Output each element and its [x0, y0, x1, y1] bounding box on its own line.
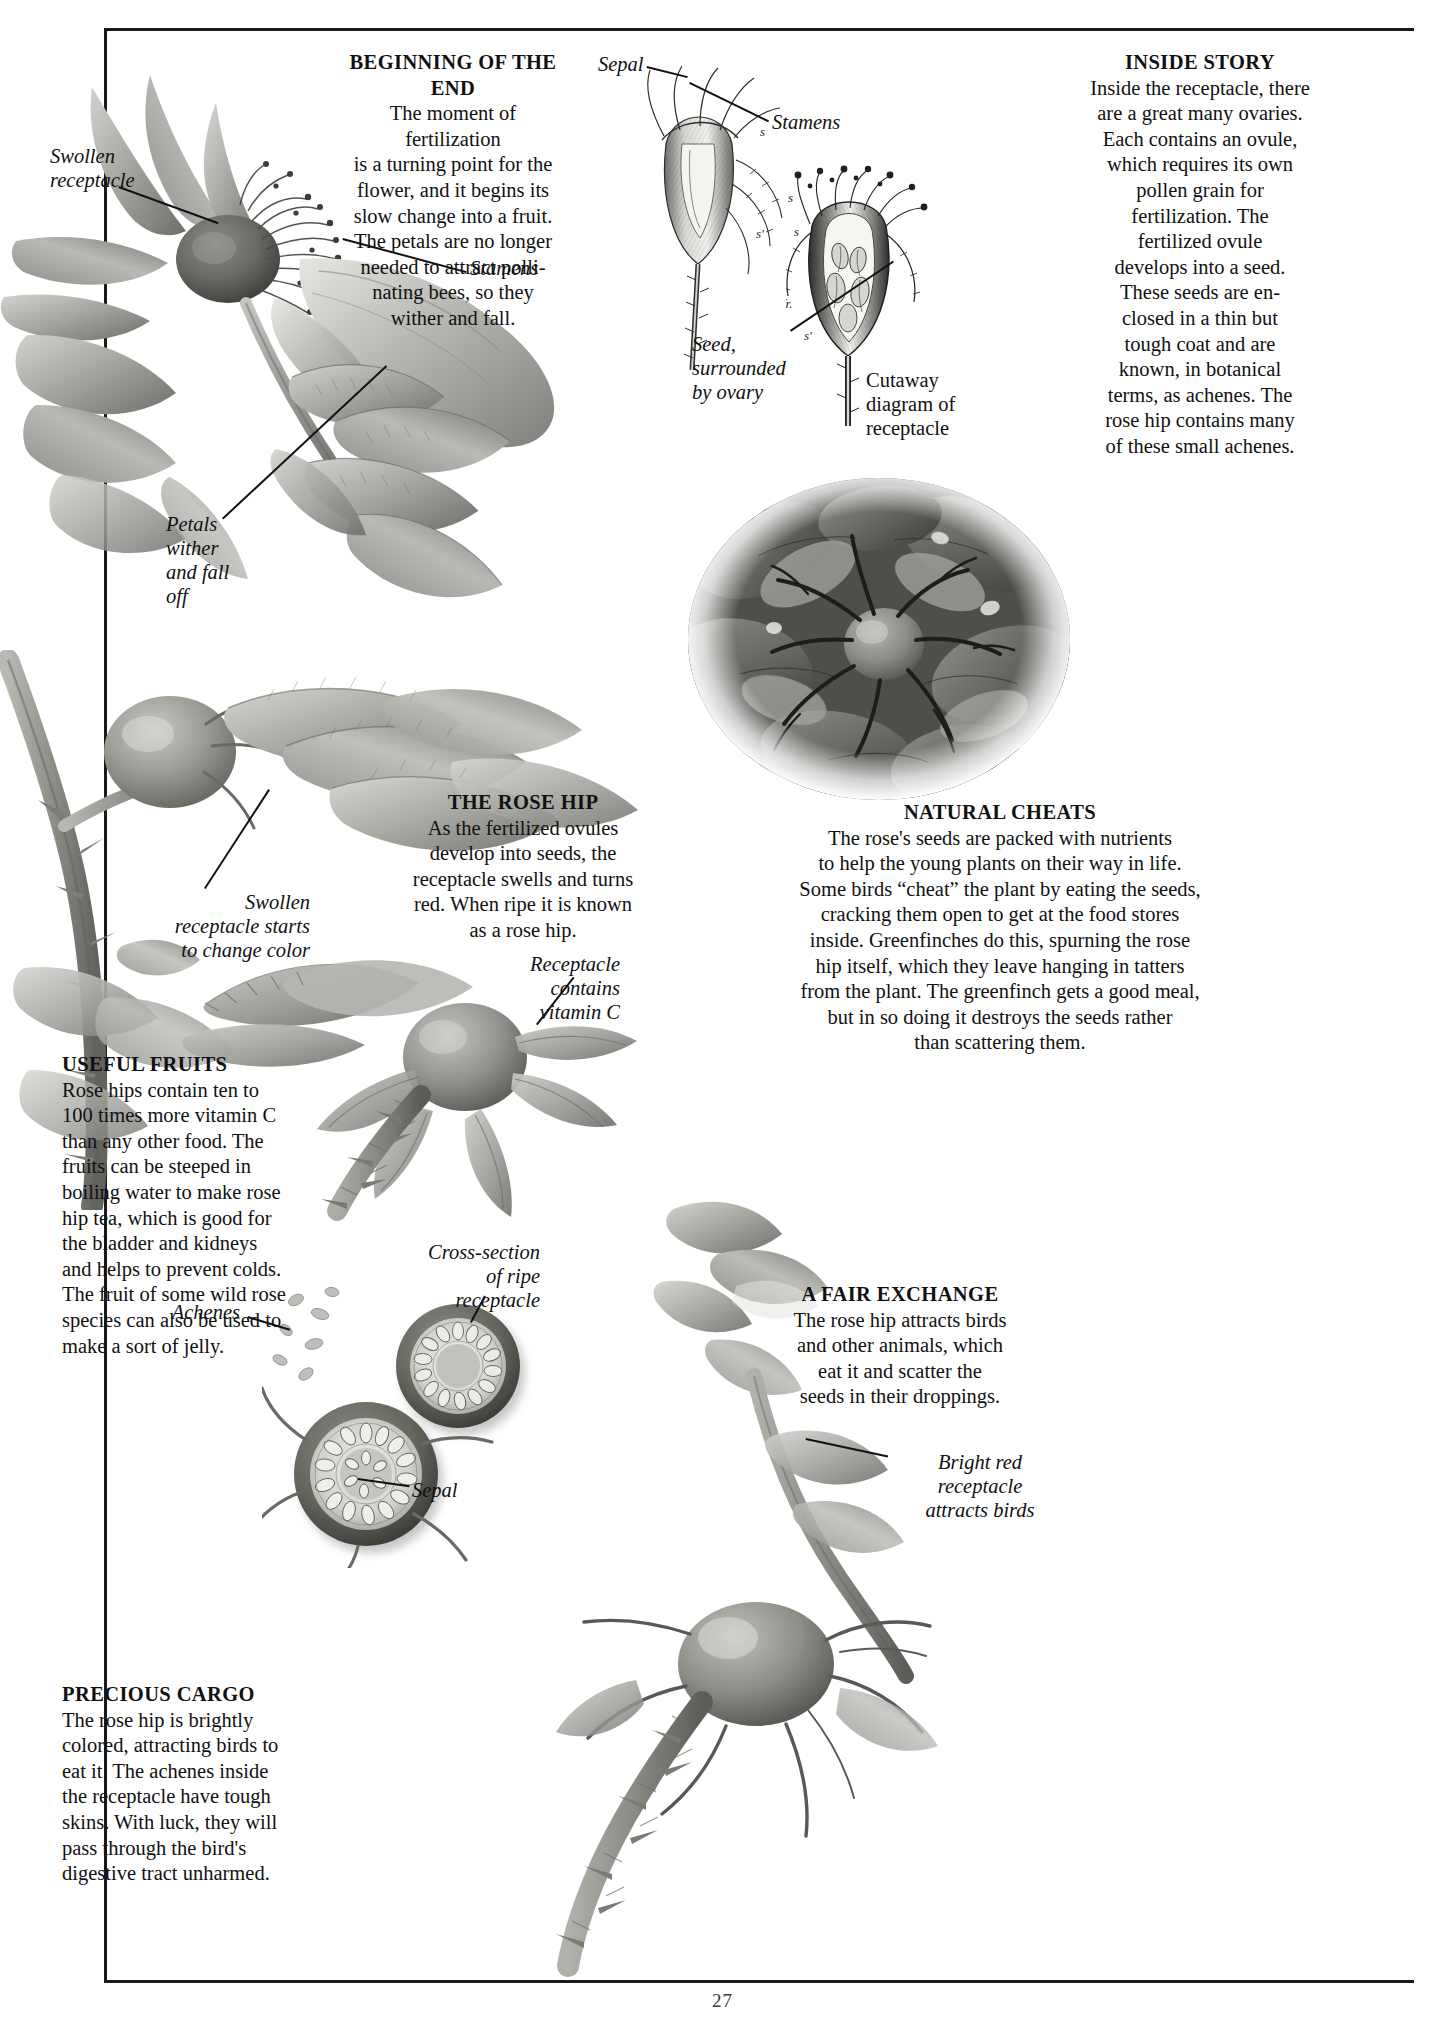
caption-stamens-engraving: Stamens [772, 110, 892, 134]
caption-line: receptacle [890, 1474, 1070, 1498]
caption-line: Swollen [120, 890, 310, 914]
body-line: eat it. The achenes inside [62, 1759, 312, 1785]
body-line: the receptacle have tough [62, 1784, 312, 1810]
body-line: than scattering them. [680, 1030, 1320, 1056]
body-line: of these small achenes. [1085, 434, 1315, 460]
body-line: The petals are no longer [342, 229, 564, 255]
heading-natural-cheats: NATURAL CHEATS [680, 800, 1320, 826]
caption-seed-surrounded-by-ovary: Seed, surrounded by ovary [692, 332, 842, 404]
body-line: fertilization. The [1085, 204, 1315, 230]
heading-precious-cargo: PRECIOUS CARGO [62, 1682, 312, 1708]
body-line: nating bees, so they [342, 280, 564, 306]
caption-line: Achenes [130, 1300, 240, 1324]
body-line: but in so doing it destroys the seeds ra… [680, 1005, 1320, 1031]
body-line: than any other food. The [62, 1129, 292, 1155]
body-line: seeds in their droppings. [780, 1384, 1020, 1410]
body-line: tough coat and are [1085, 332, 1315, 358]
photo-cross-sections-of-receptacle [262, 1278, 562, 1568]
caption-line: of ripe [400, 1264, 540, 1288]
caption-line: Cross-section [400, 1240, 540, 1264]
heading-the-rose-hip: THE ROSE HIP [408, 790, 638, 816]
body-line: make a sort of jelly. [62, 1334, 292, 1360]
text-block-beginning-of-the-end: BEGINNING OF THE END The moment of ferti… [342, 50, 564, 332]
caption-line: Swollen [50, 144, 200, 168]
body-line: red. When ripe it is known [408, 892, 638, 918]
page-rule-top [106, 28, 1414, 31]
caption-line: receptacle [400, 1288, 540, 1312]
body-line: skins. With luck, they will [62, 1810, 312, 1836]
caption-line: by ovary [692, 380, 842, 404]
caption-line: surrounded [692, 356, 842, 380]
body-line: to help the young plants on their way in… [680, 851, 1320, 877]
text-block-a-fair-exchange: A FAIR EXCHANGE The rose hip attracts bi… [780, 1282, 1020, 1410]
body-line: inside. Greenfinches do this, spurning t… [680, 928, 1320, 954]
body-line: digestive tract unharmed. [62, 1861, 312, 1887]
svg-text:s: s [760, 124, 765, 139]
caption-achenes: Achenes [130, 1300, 240, 1324]
text-block-natural-cheats: NATURAL CHEATS The rose's seeds are pack… [680, 800, 1320, 1056]
caption-line: attracts birds [890, 1498, 1070, 1522]
body-line: Some birds “cheat” the plant by eating t… [680, 877, 1320, 903]
body-line: The rose hip is brightly [62, 1708, 312, 1734]
body-line: is a turning point for the [342, 152, 564, 178]
heading-beginning-of-the-end: BEGINNING OF THE END [342, 50, 564, 101]
caption-line: and fall [166, 560, 306, 584]
body-line: hip tea, which is good for [62, 1206, 292, 1232]
heading-inside-story: INSIDE STORY [1085, 50, 1315, 76]
body-line: and other animals, which [780, 1333, 1020, 1359]
body-line: and helps to prevent colds. [62, 1257, 292, 1283]
body-line: slow change into a fruit. [342, 204, 564, 230]
body-line: Each contains an ovule, [1085, 127, 1315, 153]
body-line: Inside the receptacle, there [1085, 76, 1315, 102]
body-line: As the fertilized ovules [408, 816, 638, 842]
body-line: colored, attracting birds to [62, 1733, 312, 1759]
caption-swollen-receptacle: Swollen receptacle [50, 144, 200, 192]
caption-line: Seed, [692, 332, 842, 356]
caption-line: Petals [166, 512, 306, 536]
body-line: hip itself, which they leave hanging in … [680, 954, 1320, 980]
body-line: develop into seeds, the [408, 841, 638, 867]
body-line: 100 times more vitamin C [62, 1103, 292, 1129]
body-line: Rose hips contain ten to [62, 1078, 292, 1104]
body-line: cracking them open to get at the food st… [680, 902, 1320, 928]
caption-cross-section-of-ripe-receptacle: Cross-section of ripe receptacle [400, 1240, 540, 1312]
caption-line: Sepal [412, 1478, 512, 1502]
body-line: The rose hip attracts birds [780, 1308, 1020, 1334]
caption-line: contains [470, 976, 620, 1000]
body-line: fruits can be steeped in [62, 1154, 292, 1180]
caption-line: off [166, 584, 306, 608]
body-line: closed in a thin but [1085, 306, 1315, 332]
body-line: rose hip contains many [1085, 408, 1315, 434]
body-line: the bladder and kidneys [62, 1231, 292, 1257]
body-line: flower, and it begins its [342, 178, 564, 204]
photo-oval-rose-hip-cluster [688, 478, 1070, 800]
svg-text:s: s [788, 190, 793, 205]
body-line: These seeds are en- [1085, 280, 1315, 306]
engraving-whole-receptacle: s s' [620, 48, 800, 378]
caption-line: receptacle [866, 416, 1016, 440]
page-number: 27 [0, 1990, 1445, 2012]
body-line: which requires its own [1085, 152, 1315, 178]
body-line: boiling water to make rose [62, 1180, 292, 1206]
text-block-inside-story: INSIDE STORY Inside the receptacle, ther… [1085, 50, 1315, 460]
caption-line: wither [166, 536, 306, 560]
body-line: terms, as achenes. The [1085, 383, 1315, 409]
caption-line: Cutaway [866, 368, 1016, 392]
heading-useful-fruits: USEFUL FRUITS [62, 1052, 292, 1078]
body-line: known, in botanical [1085, 357, 1315, 383]
body-line: The moment of fertilization [342, 101, 564, 152]
caption-bright-red-receptacle: Bright red receptacle attracts birds [890, 1450, 1070, 1522]
body-line: The rose's seeds are packed with nutrien… [680, 826, 1320, 852]
caption-cutaway-diagram: Cutaway diagram of receptacle [866, 368, 1016, 440]
body-line: pass through the bird's [62, 1836, 312, 1862]
caption-line: Bright red [890, 1450, 1070, 1474]
body-line: receptacle swells and turns [408, 867, 638, 893]
body-line: are a great many ovaries. [1085, 101, 1315, 127]
svg-text:s: s [794, 224, 799, 239]
body-line: needed to attract polli- [342, 255, 564, 281]
body-line: eat it and scatter the [780, 1359, 1020, 1385]
caption-line: diagram of [866, 392, 1016, 416]
body-line: as a rose hip. [408, 918, 638, 944]
heading-a-fair-exchange: A FAIR EXCHANGE [780, 1282, 1020, 1308]
svg-text:s': s' [756, 226, 764, 241]
